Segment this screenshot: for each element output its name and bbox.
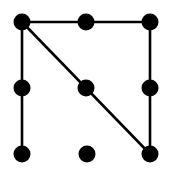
dot-r1-c2 bbox=[142, 80, 159, 97]
dot-r2-c2 bbox=[142, 146, 159, 163]
dot-r2-c0 bbox=[14, 146, 31, 163]
dot-r0-c0 bbox=[14, 14, 31, 31]
edge-0-4 bbox=[22, 22, 86, 88]
dot-r2-c1 bbox=[79, 146, 96, 163]
dot-r0-c1 bbox=[78, 14, 95, 31]
dot-r1-c0 bbox=[14, 80, 31, 97]
edge-4-8 bbox=[86, 88, 150, 154]
dot-r0-c2 bbox=[142, 14, 159, 31]
dot-r1-c1 bbox=[78, 80, 95, 97]
dot-grid-diagram bbox=[0, 0, 169, 176]
